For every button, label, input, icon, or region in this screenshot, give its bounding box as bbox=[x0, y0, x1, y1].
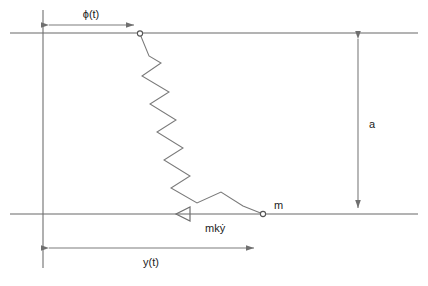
diagram-canvas: ϕ(t) m mkẏ a y(t) bbox=[0, 0, 428, 286]
displacement-label: y(t) bbox=[143, 256, 159, 268]
spring-element bbox=[140, 34, 263, 214]
phi-label: ϕ(t) bbox=[83, 8, 100, 20]
spring-top-joint bbox=[137, 31, 142, 36]
gap-label: a bbox=[369, 118, 376, 130]
mechanical-system-diagram: ϕ(t) m mkẏ a y(t) bbox=[0, 0, 428, 286]
damping-force-label: mkẏ bbox=[205, 222, 226, 234]
mass-joint bbox=[260, 211, 265, 216]
mass-label: m bbox=[274, 199, 283, 211]
